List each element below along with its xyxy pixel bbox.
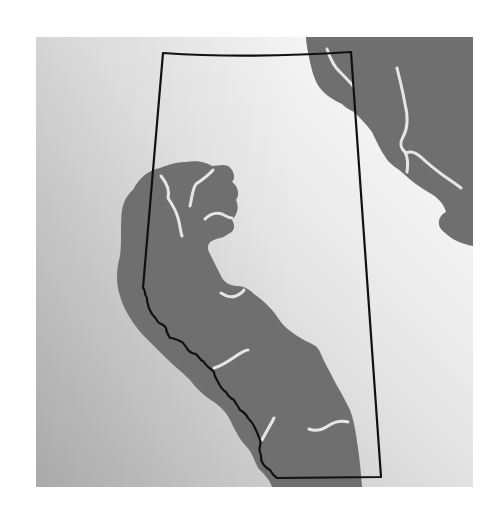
map bbox=[0, 0, 500, 514]
